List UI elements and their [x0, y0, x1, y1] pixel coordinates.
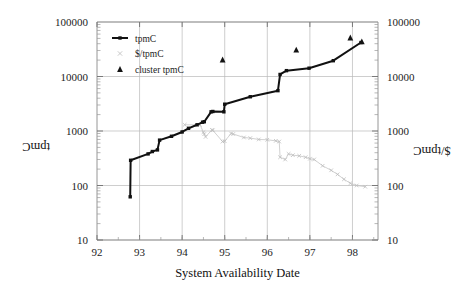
chart-figure: 1010100100100010001000010000100000100000… [0, 0, 463, 299]
y-axis-tick-label: 100000 [55, 16, 89, 28]
data-point-tpmc [307, 67, 310, 70]
legend-entry: $/tpmC [118, 49, 164, 59]
data-point-dollar-per-tpmc [283, 158, 287, 162]
data-point-tpmc [146, 152, 149, 155]
data-point-tpmc [249, 95, 252, 98]
data-point-tpmc [285, 69, 288, 72]
data-point-dollar-per-tpmc [329, 169, 333, 173]
y2-axis-tick-label: 10000 [387, 71, 415, 83]
data-point-tpmc [211, 110, 214, 113]
x-axis-tick-label: 92 [92, 246, 103, 258]
legend-square-icon [118, 36, 121, 39]
data-point-tpmc [203, 120, 206, 123]
y-axis-tick-label: 1000 [66, 125, 89, 137]
legend-label: $/tpmC [135, 49, 164, 59]
data-point-tpmc [180, 130, 183, 133]
legend-label: cluster tpmC [135, 65, 184, 75]
data-point-tpmc [129, 195, 132, 198]
axis-titles: System Availability DatetpmC$/tpmC [22, 140, 451, 280]
x-axis-tick-label: 97 [304, 246, 316, 258]
data-point-dollar-per-tpmc [336, 173, 340, 177]
series-line-dollar-per-tpmc [185, 125, 366, 187]
legend-triangle-icon [117, 66, 123, 72]
y-axis-tick-label: 100 [72, 180, 89, 192]
data-point-dollar-per-tpmc [349, 181, 353, 185]
y2-axis-tick-label: 100 [387, 180, 404, 192]
axis-tick-labels: 1010100100100010001000010000100000100000… [55, 16, 421, 258]
legend-entry: cluster tpmC [117, 65, 184, 75]
legend-label: tpmC [135, 34, 156, 44]
data-point-cluster-tpmc [293, 47, 299, 53]
data-point-tpmc [156, 148, 159, 151]
x-axis-tick-label: 96 [262, 246, 274, 258]
x-axis-title: System Availability Date [175, 266, 300, 280]
x-axis-tick-label: 94 [177, 246, 189, 258]
data-point-dollar-per-tpmc [342, 177, 346, 181]
data-point-tpmc [332, 59, 335, 62]
y2-axis-tick-label: 10 [387, 234, 399, 246]
y-axis-tick-label: 10 [77, 234, 89, 246]
x-axis-tick-label: 93 [134, 246, 146, 258]
data-point-tpmc [187, 127, 190, 130]
data-point-tpmc [170, 135, 173, 138]
x-axis-tick-label: 98 [347, 246, 359, 258]
x-axis-tick-label: 95 [219, 246, 231, 258]
data-point-tpmc [222, 110, 225, 113]
data-point-tpmc [278, 73, 281, 76]
chart-canvas: 1010100100100010001000010000100000100000… [0, 0, 463, 299]
y2-axis-title: $/tpmC [413, 144, 451, 158]
data-point-tpmc [129, 159, 132, 162]
legend-entry: tpmC [112, 34, 156, 44]
y2-axis-tick-label: 1000 [387, 125, 410, 137]
y-axis-title: tpmC [22, 140, 50, 154]
data-point-dollar-per-tpmc [321, 164, 325, 168]
data-point-tpmc [151, 150, 154, 153]
y-axis-tick-label: 10000 [61, 71, 89, 83]
data-series [129, 35, 368, 199]
data-point-tpmc [158, 138, 161, 141]
y2-axis-tick-label: 100000 [387, 16, 421, 28]
data-point-tpmc [276, 89, 279, 92]
data-point-tpmc [195, 123, 198, 126]
chart-legend: tpmC$/tpmCcluster tpmC [112, 34, 184, 75]
data-point-tpmc [223, 103, 226, 106]
